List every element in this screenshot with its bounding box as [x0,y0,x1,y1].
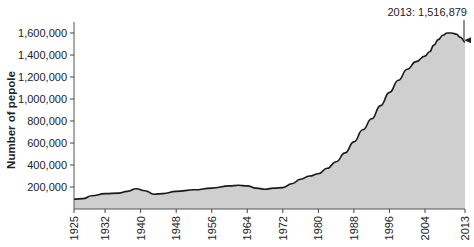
x-tick-label: 1925 [68,216,80,240]
x-axis: 1925193219401948195619641972198019881996… [68,209,471,240]
x-tick-label: 1988 [348,216,360,240]
x-tick-label: 1964 [241,216,253,240]
x-tick-label: 1948 [170,216,182,240]
y-tick-label: 1,200,000 [18,71,67,83]
y-tick-label: 1,000,000 [18,93,67,105]
y-tick-label: 1,400,000 [18,49,67,61]
y-axis-title: Number of pepole [5,71,17,169]
y-axis: 200,000400,000600,000800,0001,000,0001,2… [18,22,74,209]
y-tick-label: 400,000 [27,159,67,171]
x-tick-label: 2004 [419,216,431,240]
x-tick-label: 1972 [277,216,289,240]
y-tick-label: 200,000 [27,181,67,193]
x-tick-label: 1980 [312,216,324,240]
annotation-label: 2013: 1,516,879 [387,6,467,18]
area-series [74,33,465,209]
area-fill [74,33,465,209]
x-tick-label: 1956 [206,216,218,240]
y-tick-label: 1,600,000 [18,27,67,39]
x-tick-label: 1996 [383,216,395,240]
x-tick-label: 2013 [459,216,471,240]
y-tick-label: 800,000 [27,115,67,127]
x-tick-label: 1932 [99,216,111,240]
y-tick-label: 600,000 [27,137,67,149]
x-tick-label: 1940 [135,216,147,240]
area-chart: 200,000400,000600,000800,0001,000,0001,2… [0,0,474,247]
